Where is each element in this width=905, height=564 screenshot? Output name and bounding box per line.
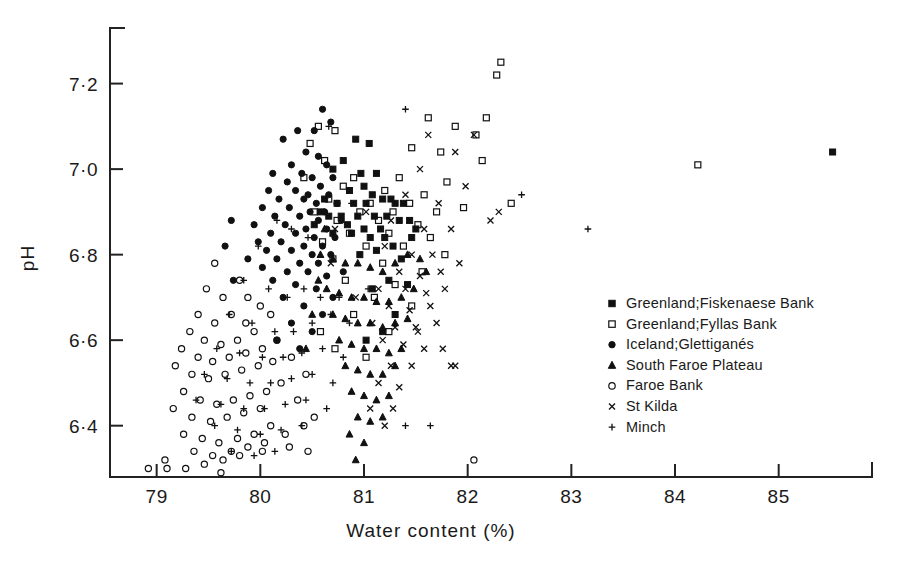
data-point [361,226,367,232]
data-point [349,230,355,236]
data-point [282,222,288,228]
data-point [303,397,310,404]
data-point [236,350,243,357]
data-point [425,132,431,138]
data-point [210,358,216,364]
data-point [319,311,325,317]
data-point [407,200,413,206]
legend-label: St Kilda [626,398,678,414]
data-point [315,217,321,223]
data-point [272,448,279,455]
data-point [203,286,209,292]
data-point [340,269,346,275]
data-point [259,264,265,270]
data-point [363,337,369,343]
legend-item[interactable]: Greenland;Fiskenaese Bank [609,295,815,311]
data-point [409,235,415,241]
data-point [385,392,392,399]
data-point [434,209,440,215]
data-point [421,226,427,232]
data-point [392,259,399,266]
data-point [251,222,257,228]
legend-item[interactable]: Faroe Bank [609,377,704,393]
data-point [332,346,338,352]
data-point [270,277,276,283]
data-point [317,329,323,335]
data-point [398,256,404,262]
data-point [396,217,402,223]
data-point [313,200,319,206]
data-point [373,247,379,253]
data-point [379,324,386,331]
data-point [330,294,336,300]
data-point [226,311,233,318]
x-tick-label: 84 [664,486,686,507]
data-point [234,435,240,441]
data-point [427,303,433,309]
data-point [218,470,224,476]
data-point [263,247,269,253]
data-point [239,367,245,373]
data-point [440,346,446,352]
data-point [172,363,178,369]
data-point [261,440,267,446]
data-point [280,136,286,142]
data-point [330,175,336,181]
data-point [292,187,298,193]
data-point [234,337,240,343]
data-point [319,345,326,352]
data-point [366,140,372,146]
data-point [367,264,374,271]
data-point [222,243,228,249]
data-point [695,162,701,168]
data-point [332,234,338,240]
legend-item[interactable]: St Kilda [609,398,678,414]
legend-marker-cross [609,404,615,410]
series-5 [328,132,502,429]
data-point [334,200,340,206]
data-point [456,260,462,266]
legend-item[interactable]: South Faroe Plateau [608,357,762,373]
series-3 [302,225,429,463]
data-point [290,328,297,335]
data-point [305,448,311,454]
data-point [268,311,274,317]
data-point [259,346,265,352]
data-point [301,286,308,293]
data-point [402,106,409,113]
data-point [351,312,357,318]
data-point [398,294,405,301]
data-point [358,170,364,176]
data-point [330,166,336,172]
data-point [305,234,312,241]
data-point [309,311,316,318]
series-0 [311,136,835,343]
data-point [259,354,266,361]
data-point [388,217,394,223]
data-point [363,200,369,206]
data-point [309,252,315,258]
plot-canvas: 6·46·66·87·07·279808182838485 Water cont… [0,0,905,564]
data-point [448,226,454,232]
data-point [266,187,272,193]
data-point [409,363,415,369]
data-point [263,388,269,394]
data-point [297,260,303,266]
data-point [471,132,477,138]
data-point [315,153,321,159]
data-point [425,115,431,121]
data-point [340,183,346,189]
data-point [402,192,408,198]
data-point [830,149,836,155]
legend-item[interactable]: Minch [609,419,666,435]
x-tick-label: 83 [560,486,582,507]
data-point [382,235,388,241]
data-point [178,346,184,352]
data-point [319,243,325,249]
data-point [421,346,427,352]
data-point [354,366,361,373]
x-axis-title: Water content (%) [346,520,515,541]
x-tick-label: 85 [768,486,790,507]
legend-item[interactable]: Iceland;Glettiganés [609,336,754,352]
legend-item[interactable]: Greenland;Fyllas Bank [609,316,778,332]
